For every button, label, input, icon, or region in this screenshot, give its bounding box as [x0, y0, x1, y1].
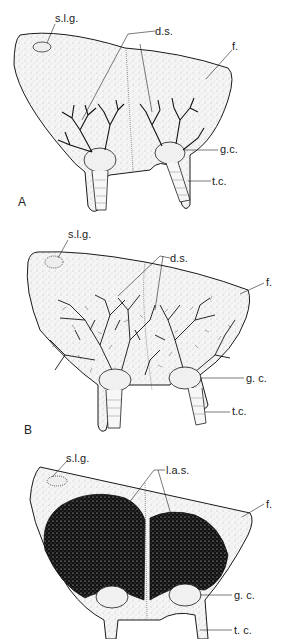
- panel-letter-a: A: [18, 195, 26, 209]
- figure-illustration: s.l.g. d.s. f. g.c. t.c. A: [0, 0, 284, 639]
- label-ds: d.s.: [155, 25, 173, 37]
- label-gc: g.c.: [220, 143, 238, 155]
- gc-left: [96, 586, 128, 608]
- slg-gland: [47, 476, 67, 486]
- panel-c: s.l.g. l.a.s. f. g. c. t. c.: [30, 452, 272, 639]
- las-left-lobe: [44, 494, 145, 600]
- label-las: l.a.s.: [166, 464, 189, 476]
- gc-right: [169, 584, 201, 606]
- label-gc: g. c.: [246, 372, 267, 384]
- label-f: f.: [266, 498, 272, 510]
- label-tc: t.c.: [232, 405, 247, 417]
- label-f: f.: [232, 40, 238, 52]
- panel-b-body: [27, 252, 249, 432]
- gc-left: [84, 148, 116, 172]
- panel-a-body: [14, 33, 232, 211]
- panel-letter-b: B: [24, 423, 32, 437]
- label-slg: s.l.g.: [66, 452, 89, 464]
- gc-left: [99, 369, 131, 391]
- label-slg: s.l.g.: [68, 228, 91, 240]
- slg-gland: [33, 42, 51, 52]
- label-f: f.: [266, 276, 272, 288]
- label-ds: d.s.: [170, 252, 188, 264]
- label-slg: s.l.g.: [55, 12, 78, 24]
- slg-gland: [45, 256, 63, 268]
- panel-a: s.l.g. d.s. f. g.c. t.c. A: [14, 12, 238, 211]
- label-tc: t.c.: [212, 175, 227, 187]
- gc-right: [169, 367, 201, 389]
- gc-right: [155, 142, 185, 164]
- label-tc: t. c.: [234, 624, 252, 636]
- panel-b: s.l.g. d.s. f. g. c. t.c. B: [24, 228, 272, 437]
- label-gc: g. c.: [234, 589, 255, 601]
